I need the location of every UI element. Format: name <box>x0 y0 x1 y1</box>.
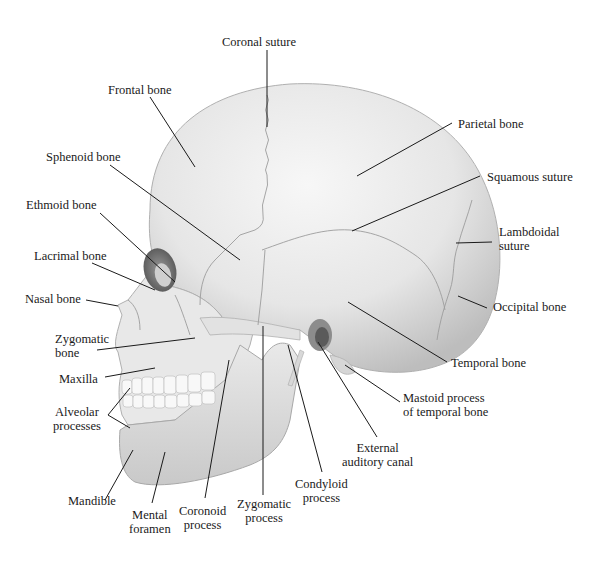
label-squamous-suture: Squamous suture <box>487 170 573 184</box>
label-mental-foramen-line1: Mental <box>129 508 171 522</box>
skull-diagram: Coronal suture Frontal bone Parietal bon… <box>0 0 612 564</box>
label-condyloid-line1: Condyloid <box>295 477 348 491</box>
label-external-auditory-canal: External auditory canal <box>342 441 413 469</box>
label-eac-line2: auditory canal <box>342 455 413 469</box>
label-mastoid-process: Mastoid process of temporal bone <box>403 391 488 419</box>
label-mental-foramen-line2: foramen <box>129 522 171 536</box>
label-condyloid-line2: process <box>295 491 348 505</box>
label-temporal-bone: Temporal bone <box>451 356 526 370</box>
label-zygomatic-process: Zygomatic process <box>237 497 291 525</box>
label-frontal-bone: Frontal bone <box>108 83 172 97</box>
label-zygomatic-bone-line1: Zygomatic <box>55 332 109 346</box>
label-coronoid-process: Coronoid process <box>179 504 226 532</box>
label-ethmoid-bone: Ethmoid bone <box>26 198 96 212</box>
label-zygomatic-bone-line2: bone <box>55 346 109 360</box>
label-maxilla: Maxilla <box>59 372 98 386</box>
label-alveolar-line2: processes <box>53 419 101 433</box>
label-zygomatic-process-line1: Zygomatic <box>237 497 291 511</box>
label-alveolar-processes: Alveolar processes <box>53 405 101 433</box>
label-mastoid-line2: of temporal bone <box>403 405 488 419</box>
label-lambdoidal-suture: Lambdoidal suture <box>499 225 559 253</box>
label-mastoid-line1: Mastoid process <box>403 391 488 405</box>
label-lacrimal-bone: Lacrimal bone <box>34 249 107 263</box>
label-coronoid-line2: process <box>179 518 226 532</box>
label-alveolar-line1: Alveolar <box>53 405 101 419</box>
label-eac-line1: External <box>342 441 413 455</box>
label-condyloid-process: Condyloid process <box>295 477 348 505</box>
label-coronal-suture: Coronal suture <box>222 35 296 49</box>
label-lambdoidal-line1: Lambdoidal <box>499 225 559 239</box>
label-mental-foramen: Mental foramen <box>129 508 171 536</box>
label-parietal-bone: Parietal bone <box>458 117 524 131</box>
label-zygomatic-bone: Zygomatic bone <box>55 332 109 360</box>
label-zygomatic-process-line2: process <box>237 511 291 525</box>
label-nasal-bone: Nasal bone <box>25 292 81 306</box>
label-occipital-bone: Occipital bone <box>493 300 566 314</box>
label-mandible: Mandible <box>68 494 116 508</box>
label-sphenoid-bone: Sphenoid bone <box>46 150 121 164</box>
label-lambdoidal-line2: suture <box>499 239 559 253</box>
label-coronoid-line1: Coronoid <box>179 504 226 518</box>
